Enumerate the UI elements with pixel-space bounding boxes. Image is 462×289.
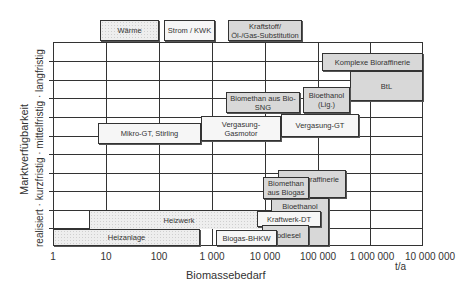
y-tick [49,61,53,62]
y-tick [49,117,53,118]
box-biomethan-biogas: Biomethanaus Biogas [263,177,309,199]
box-label: Biomethan [268,179,304,188]
box-mikro-gt-stirling: Mikro-GT, Stirling [98,123,201,144]
box-biogas-bhkw: Biogas-BHKW [216,230,277,246]
box-label: Biogas-BHKW [223,234,271,243]
box-btl: BtL [350,71,423,101]
y-tick [49,98,53,99]
gridline-y [53,154,423,155]
legend-power: Strom / KWK [164,20,215,41]
box-label: Vergasung- [222,120,260,129]
legend-heat-label: Wärme [117,26,141,35]
y-tick [49,154,53,155]
box-komplexe-bioraffinerie: Komplexe Bioraffinerie [322,53,423,71]
x-tick-label: 10 000 [250,251,281,262]
x-tick-label: 100 000 [300,251,336,262]
gridline-y [53,173,423,174]
box-heizanlage: Heizanlage [53,229,200,246]
legend-power-label: Strom / KWK [168,26,211,35]
x-tick-label: 1 000 [199,251,224,262]
legend-fuel-label-2: Öl-/Gas-Substitution [231,31,299,40]
y-tick [49,191,53,192]
y-tick [49,173,53,174]
box-label: Mikro-GT, Stirling [121,129,179,138]
x-tick-label: 1 [50,251,56,262]
x-tick-label: 1 000 000 [350,251,395,262]
legend-fuel: Kraftstoff/Öl-/Gas-Substitution [228,20,302,41]
box-vergasung-gasmotor: Vergasung-Gasmotor [201,116,281,141]
gridline-y [53,191,423,192]
box-vergasung-gt: Vergasung-GT [281,114,359,137]
x-tick-label: 10 000 000 [405,251,455,262]
box-label: Heizanlage [108,233,146,242]
box-label: aus Biogas [267,188,304,197]
box-label: Vergasung-GT [296,121,345,130]
y-tick [49,80,53,81]
box-label: SNG [255,103,271,112]
box-label: BtL [381,82,392,91]
box-label: Bioethanol [309,91,344,100]
y-tick [49,136,53,137]
box-label: Komplexe Bioraffinerie [335,58,410,67]
x-tick-label: 10 [100,251,111,262]
legend-fuel-label-1: Kraftstoff/ [249,22,281,31]
x-unit-label: t/a [395,261,406,272]
box-label: (Lig.) [318,100,335,109]
box-heizwerk: Heizwerk [89,210,269,229]
box-biomethan-sng: Biomethan aus Bio-SNG [226,92,300,113]
y-axis-sublabel: realisiert · kurzfristig · mittelfristig… [34,49,45,247]
x-axis-label: Biomassebedarf [186,269,266,281]
box-bioethanol-lig: Bioethanol(Lig.) [303,87,350,113]
box-label: Heizwerk [164,216,195,225]
box-label: Kraftwerk-DT [267,215,311,224]
y-axis-label: Marktverfügbarkeit [18,104,30,195]
x-tick-label: 100 [151,251,168,262]
box-label: Gasmotor [225,129,258,138]
box-label: Biomethan aus Bio- [230,94,295,103]
y-tick [49,210,53,211]
legend-heat: Wärme [100,20,159,41]
